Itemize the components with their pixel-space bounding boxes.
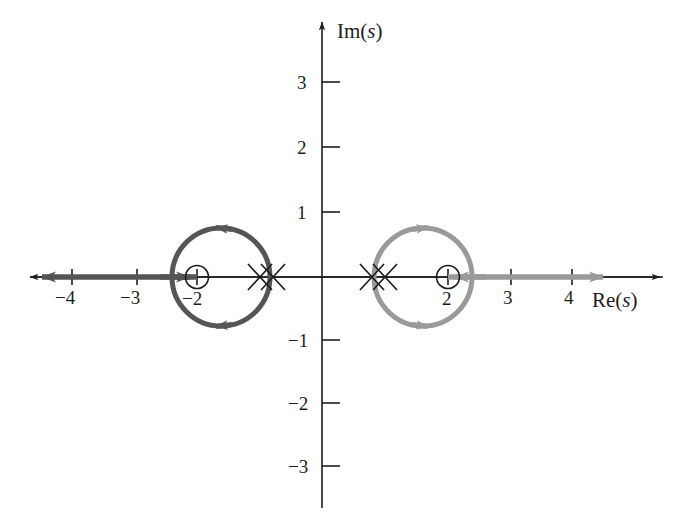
y-axis-label-prefix: Im( (337, 19, 367, 43)
axis-lines (30, 22, 663, 508)
y-axis-label: Im(s) (337, 19, 383, 44)
locus-right-arc-top (374, 228, 423, 277)
y-tick-label-3: 3 (297, 72, 307, 94)
y-tick-label-2: 2 (297, 137, 307, 159)
x-tick-label-4: 4 (564, 287, 574, 309)
x-tick-label--3: −3 (120, 287, 140, 309)
y-tick-label--1: −1 (288, 330, 308, 352)
y-axis-ticks (322, 82, 340, 466)
x-axis-label-prefix: Re( (592, 288, 622, 312)
plot-canvas (0, 0, 679, 528)
x-axis-label: Re(s) (592, 288, 638, 313)
x-axis-label-variable: s (622, 288, 630, 312)
zero-marker-right (437, 266, 460, 289)
root-locus-figure: −4 −3 3 4 3 2 1 −1 −2 −3 −2 2 Re(s) Im(s… (0, 0, 679, 528)
locus-right-arc-bottom (374, 277, 423, 326)
x-axis-label-suffix: ) (631, 288, 638, 312)
y-tick-label--2: −2 (288, 393, 308, 415)
y-tick-label--3: −3 (288, 456, 308, 478)
zero-marker-left (186, 266, 209, 289)
y-tick-label-1: 1 (297, 202, 307, 224)
zero-label-left: −2 (182, 288, 202, 310)
y-axis-label-variable: s (367, 19, 375, 43)
y-axis-label-suffix: ) (376, 19, 383, 43)
x-tick-label-3: 3 (503, 287, 513, 309)
zero-label-right: 2 (442, 288, 452, 310)
locus-left-arc-bottom (221, 277, 270, 326)
x-tick-label--4: −4 (55, 287, 75, 309)
locus-left-arc-top (221, 228, 270, 277)
